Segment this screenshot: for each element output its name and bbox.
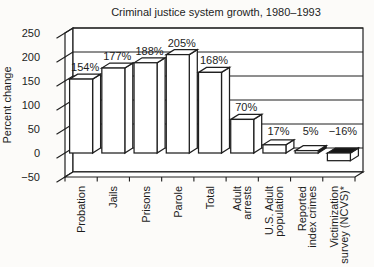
y-tick-label: 150 — [22, 75, 40, 87]
category-label: U.S. Adultpopulation — [263, 186, 285, 237]
bar-value-label: 177% — [103, 50, 131, 62]
y-axis-title: Percent change — [1, 66, 13, 143]
bar-value-label: 17% — [267, 125, 289, 137]
bar-value-label: 205% — [168, 37, 196, 49]
bar-front-face — [231, 119, 254, 153]
y-tick-label: 100 — [22, 99, 40, 111]
bar-front-face — [295, 151, 318, 153]
chart-title: Criminal justice system growth, 1980–199… — [111, 6, 321, 18]
y-tick-label: 50 — [28, 123, 40, 135]
bar-side-face — [254, 114, 262, 153]
bar-front-face — [70, 79, 93, 153]
bar-value-label: 188% — [135, 45, 163, 57]
y-tick-label: 200 — [22, 51, 40, 63]
bar-value-label: 154% — [71, 61, 99, 73]
bar-front-face — [263, 145, 286, 153]
bar-value-label: 5% — [303, 125, 319, 137]
category-label: Prisons — [140, 186, 152, 223]
bar-value-label: −16% — [329, 125, 358, 137]
bar-side-face — [125, 63, 133, 153]
bar-value-label: 70% — [235, 101, 257, 113]
bar-value-label: 168% — [200, 54, 228, 66]
category-label: Adultarrests — [231, 186, 253, 220]
category-label: Total — [204, 186, 216, 209]
category-label: Jails — [107, 186, 119, 209]
bar-side-face — [157, 58, 165, 153]
bar-front-face — [134, 63, 157, 153]
bar-front-face — [102, 68, 125, 153]
plot-area: 250200150100500−50154%Probation177%Jails… — [21, 27, 363, 264]
floor — [65, 172, 363, 177]
category-label: Probation — [75, 186, 87, 233]
y-tick-label: 250 — [22, 27, 40, 39]
bar-front-face — [166, 55, 189, 153]
chart-figure: Criminal justice system growth, 1980–199… — [0, 0, 374, 267]
category-label: Parole — [172, 186, 184, 218]
y-tick-label: −50 — [21, 171, 40, 183]
bar-front-face — [327, 153, 350, 161]
bar-chart-3d: Criminal justice system growth, 1980–199… — [0, 0, 374, 267]
category-label: Reportedindex crimes — [296, 186, 318, 248]
bar-side-face — [93, 74, 101, 153]
bar-side-face — [222, 67, 230, 153]
category-label: Victimizationsurvey (NCVS)* — [328, 185, 350, 263]
y-tick-label: 0 — [34, 147, 40, 159]
bar-side-face — [189, 50, 197, 153]
bar-front-face — [199, 72, 222, 153]
